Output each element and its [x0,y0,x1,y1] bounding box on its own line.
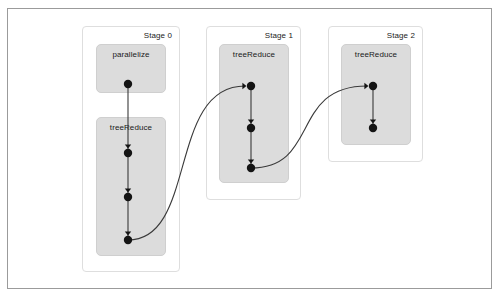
dag-visualization-root: Stage 0 parallelize treeReduce Stage 1 t… [0,0,499,299]
op-box-label-parallelize: parallelize [97,50,165,59]
op-box-label-treereduce-stage-0: treeReduce [97,123,165,132]
stage-title-stage-1: Stage 1 [265,31,293,40]
op-box-treereduce-stage-2[interactable]: treeReduce [341,44,411,145]
op-box-label-treereduce-stage-2: treeReduce [342,50,410,59]
op-box-parallelize[interactable]: parallelize [96,44,166,93]
op-box-treereduce-stage-1[interactable]: treeReduce [219,44,289,183]
stage-title-stage-2: Stage 2 [387,31,415,40]
op-box-treereduce-stage-0[interactable]: treeReduce [96,117,166,256]
op-box-label-treereduce-stage-1: treeReduce [220,50,288,59]
stage-title-stage-0: Stage 0 [144,31,172,40]
